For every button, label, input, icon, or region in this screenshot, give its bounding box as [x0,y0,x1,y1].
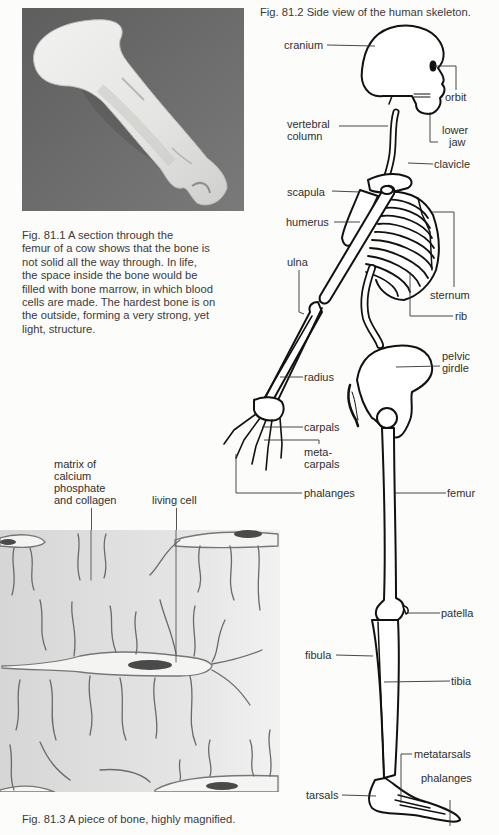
label-scapula: scapula [287,186,325,198]
label-phalanges-foot: phalanges [421,772,472,784]
label-carpals: carpals [304,421,339,433]
label-lower-jaw-2: jaw [449,136,466,148]
label-tarsals: tarsals [306,789,338,801]
label-femur: femur [447,487,475,499]
label-matrix-2: calcium [54,470,91,482]
label-phalanges-hand: phalanges [304,487,355,499]
label-clavicle: clavicle [434,158,470,170]
label-matrix-4: and collagen [54,494,116,506]
fig3-caption: Fig. 81.3 A piece of bone, highly magnif… [22,813,235,826]
label-metatarsals: metatarsals [414,748,471,760]
magnified-bone-illustration [0,530,280,792]
label-vertebral-column-1: vertebral [287,118,330,130]
label-patella: patella [441,607,473,619]
label-metacarpals-2: carpals [304,458,339,470]
label-pelvic-girdle-1: pelvic [442,350,470,362]
label-cranium: cranium [284,39,323,51]
label-orbit: orbit [445,91,466,103]
label-metacarpals-1: meta- [304,446,332,458]
label-living-cell: living cell [152,494,197,506]
label-sternum: sternum [430,289,470,301]
label-lower-jaw-1: lower [442,124,468,136]
label-matrix-3: phosphate [54,482,105,494]
label-humerus: humerus [286,216,329,228]
label-tibia: tibia [451,675,471,687]
label-fibula: fibula [305,649,331,661]
label-vertebral-column-2: column [287,130,322,142]
label-matrix-1: matrix of [54,458,96,470]
label-pelvic-girdle-2: girdle [442,362,469,374]
label-rib: rib [455,310,467,322]
label-radius: radius [304,371,334,383]
label-ulna: ulna [287,256,308,268]
fig3-leader-top [91,508,92,530]
fig3-leader-top-cell [176,508,177,530]
